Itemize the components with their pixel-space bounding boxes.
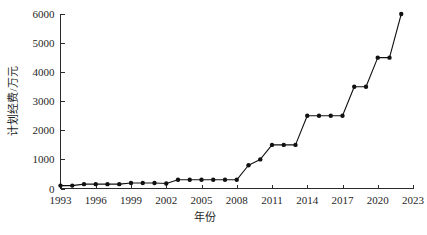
data-point-marker: [246, 163, 250, 167]
data-point-marker: [399, 12, 403, 16]
x-axis-tick-label: 2023: [402, 194, 425, 206]
y-axis-tick-label: 4000: [33, 66, 56, 78]
data-point-marker: [317, 114, 321, 118]
data-point-marker: [117, 182, 121, 186]
data-point-marker: [199, 178, 203, 182]
x-axis-tick-label: 2014: [296, 194, 319, 206]
x-axis-tick-labels: 1993199619992002200520082011201420172020…: [50, 194, 425, 206]
data-point-marker: [364, 85, 368, 89]
data-point-marker: [270, 143, 274, 147]
chart-figure: 0100020003000400050006000 19931996199920…: [0, 0, 427, 235]
x-axis-tick-label: 1993: [50, 194, 73, 206]
data-point-marker: [258, 157, 262, 161]
data-point-marker: [211, 178, 215, 182]
data-series-line: [61, 14, 402, 186]
y-axis-tick-label: 1000: [33, 153, 56, 165]
data-point-marker: [340, 114, 344, 118]
data-point-marker: [176, 178, 180, 182]
data-point-marker: [305, 114, 309, 118]
data-point-marker: [70, 183, 74, 187]
data-point-marker: [164, 181, 168, 185]
data-point-marker: [235, 178, 239, 182]
y-axis-ticks: [61, 15, 65, 190]
data-point-marker: [105, 182, 109, 186]
x-axis-tick-label: 2020: [367, 194, 390, 206]
y-axis-tick-labels: 0100020003000400050006000: [33, 8, 56, 195]
y-axis-tick-label: 5000: [33, 37, 56, 49]
data-point-marker: [223, 178, 227, 182]
x-axis-ticks: [62, 185, 414, 189]
data-point-markers: [58, 12, 403, 188]
data-point-marker: [282, 143, 286, 147]
data-point-marker: [152, 181, 156, 185]
data-point-marker: [129, 181, 133, 185]
data-point-marker: [82, 182, 86, 186]
data-point-marker: [352, 85, 356, 89]
y-axis-tick-label: 6000: [33, 8, 56, 20]
data-point-marker: [188, 178, 192, 182]
x-axis-tick-label: 2002: [155, 194, 177, 206]
x-axis-title: 年份: [194, 210, 216, 223]
x-axis-tick-label: 2017: [332, 194, 355, 206]
data-point-marker: [387, 55, 391, 59]
x-axis-tick-label: 1996: [85, 194, 108, 206]
data-point-marker: [58, 183, 62, 187]
data-point-marker: [293, 143, 297, 147]
x-axis-tick-label: 2005: [191, 194, 214, 206]
data-point-marker: [141, 181, 145, 185]
data-point-marker: [376, 55, 380, 59]
y-axis-tick-label: 2000: [33, 124, 56, 136]
data-point-marker: [94, 182, 98, 186]
y-axis-title: 计划经费/万元: [7, 66, 19, 135]
line-chart-plot: 0100020003000400050006000 19931996199920…: [0, 0, 427, 235]
data-point-marker: [329, 114, 333, 118]
x-axis-tick-label: 1999: [120, 194, 143, 206]
y-axis-tick-label: 3000: [33, 95, 56, 107]
x-axis-tick-label: 2011: [261, 194, 283, 206]
x-axis-tick-label: 2008: [226, 194, 249, 206]
